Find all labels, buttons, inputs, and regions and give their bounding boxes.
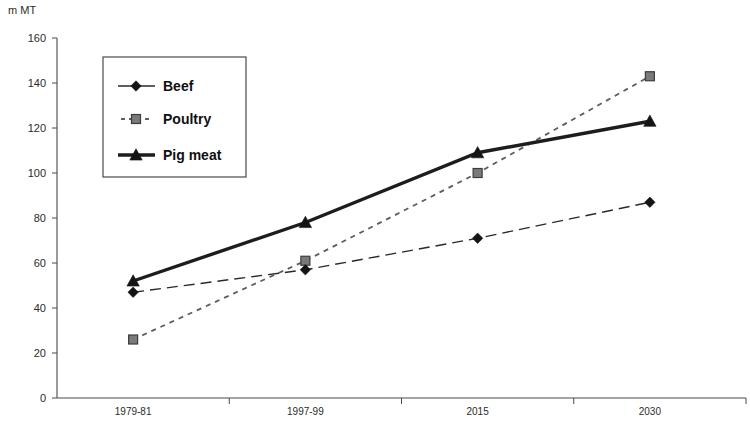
y-tick-label: 0 — [40, 392, 46, 404]
data-point-beef — [300, 265, 310, 275]
y-tick-label: 60 — [34, 257, 46, 269]
data-point-poultry — [129, 335, 138, 344]
data-point-beef — [472, 233, 482, 243]
x-tick-label: 1997-99 — [287, 406, 324, 417]
data-point-beef — [645, 197, 655, 207]
y-axis-title: m MT — [8, 4, 36, 16]
x-axis-tick-group: 1979-811997-9920152030 — [115, 398, 746, 417]
legend-label-poultry: Poultry — [163, 111, 211, 127]
y-tick-label: 120 — [28, 122, 46, 134]
series-beef — [128, 197, 655, 297]
y-tick-label: 20 — [34, 347, 46, 359]
data-point-beef — [128, 287, 138, 297]
y-tick-label: 80 — [34, 212, 46, 224]
y-tick-label: 140 — [28, 77, 46, 89]
data-point-poultry — [645, 72, 654, 81]
legend-label-beef: Beef — [163, 78, 194, 94]
y-tick-label: 40 — [34, 302, 46, 314]
y-axis-tick-group: 020406080100120140160 — [28, 32, 57, 404]
data-point-poultry — [473, 169, 482, 178]
x-tick-label: 2030 — [639, 406, 662, 417]
y-tick-label: 160 — [28, 32, 46, 44]
series-line-beef — [133, 202, 650, 292]
x-tick-label: 1979-81 — [115, 406, 152, 417]
meat-production-line-chart: m MT 020406080100120140160 1979-811997-9… — [0, 0, 750, 429]
legend-label-pig-meat: Pig meat — [163, 147, 222, 163]
legend-marker-poultry — [132, 115, 141, 124]
chart-legend: BeefPoultryPig meat — [103, 57, 246, 177]
data-point-poultry — [301, 256, 310, 265]
y-tick-label: 100 — [28, 167, 46, 179]
x-tick-label: 2015 — [467, 406, 490, 417]
chart-container: m MT 020406080100120140160 1979-811997-9… — [0, 0, 750, 429]
